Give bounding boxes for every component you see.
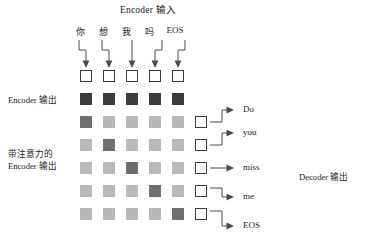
decoder-output-label: Decoder 输出 bbox=[299, 172, 348, 183]
output-token-4: me bbox=[243, 191, 254, 201]
output-token-5: EOS bbox=[243, 220, 260, 230]
output-token-1: Do bbox=[243, 104, 254, 114]
output-arrows bbox=[0, 0, 374, 246]
diagram-canvas: Encoder 输入 你 想 我 吗 EOS Encoder 输出 bbox=[0, 0, 374, 246]
output-token-2: you bbox=[243, 127, 257, 137]
output-token-3: miss bbox=[243, 162, 260, 172]
